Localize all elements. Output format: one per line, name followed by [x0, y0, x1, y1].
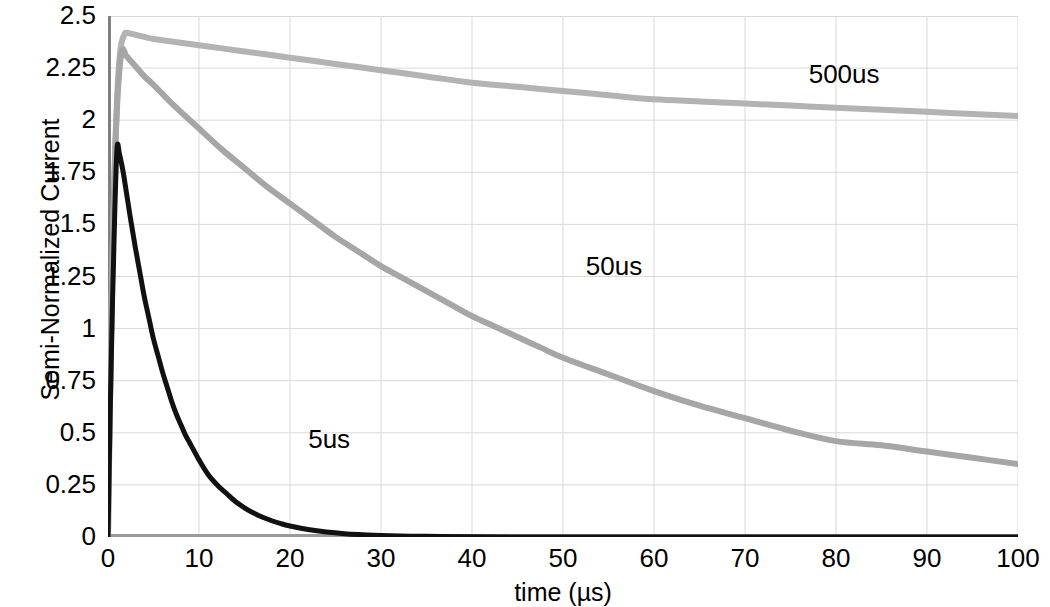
x-tick-label: 20	[250, 543, 330, 573]
y-tick-label: 2	[82, 106, 96, 132]
plot-area: 500us50us5us	[108, 16, 1018, 537]
x-tick-label: 60	[614, 543, 694, 573]
x-tick-label: 0	[68, 543, 148, 573]
y-tick-label: 1	[82, 315, 96, 341]
x-tick-label: 10	[159, 543, 239, 573]
x-tick-label: 50	[523, 543, 603, 573]
series-annotation-50us: 50us	[586, 253, 642, 279]
x-axis-title: time (µs)	[108, 578, 1018, 607]
y-tick-label: 0.25	[45, 471, 96, 497]
y-tick-label: 0.5	[60, 419, 96, 445]
x-tick-label: 100	[978, 543, 1050, 573]
x-tick-label: 30	[341, 543, 421, 573]
y-tick-label: 2.25	[45, 54, 96, 80]
gridlines	[108, 16, 1018, 537]
x-tick-label: 90	[887, 543, 967, 573]
plot-svg	[108, 16, 1018, 537]
y-tick-label: 1.75	[45, 158, 96, 184]
series-annotation-500us: 500us	[809, 61, 880, 87]
x-tick-label: 40	[432, 543, 512, 573]
series-annotation-5us: 5us	[308, 426, 350, 452]
x-tick-label: 80	[796, 543, 876, 573]
y-tick-label: 0.75	[45, 367, 96, 393]
y-tick-label: 2.5	[60, 2, 96, 28]
chart-container: Semi-Normalized Current 00.250.50.7511.2…	[0, 0, 1050, 607]
y-tick-label: 1.25	[45, 263, 96, 289]
x-tick-label: 70	[705, 543, 785, 573]
y-tick-label: 1.5	[60, 210, 96, 236]
